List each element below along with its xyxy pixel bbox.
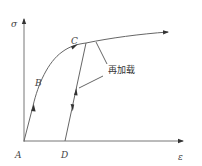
reload-annotation: 再加载: [108, 64, 135, 75]
x-axis-label: ε: [178, 152, 183, 162]
point-c-label: C: [71, 36, 78, 46]
stress-strain-diagram: σ ε A B C D 再加载: [0, 0, 202, 166]
point-a-label: A: [14, 150, 22, 160]
leader-line-curve: [96, 42, 107, 64]
point-d-label: D: [60, 150, 68, 160]
leader-line-reload: [79, 76, 103, 88]
arrow-up-ab-icon: [31, 104, 35, 112]
loading-curve: [24, 32, 168, 141]
y-axis-label: σ: [11, 19, 18, 29]
point-b-label: B: [34, 78, 42, 88]
